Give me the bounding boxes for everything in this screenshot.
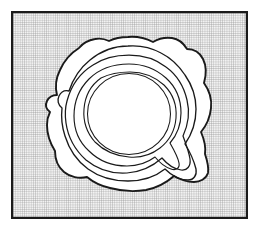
blob-fill bbox=[46, 37, 211, 191]
contour-figure bbox=[0, 0, 258, 232]
figure-root bbox=[0, 0, 258, 232]
